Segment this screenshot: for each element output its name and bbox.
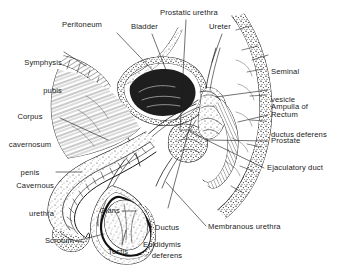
label-bladder: Bladder [131,22,158,31]
label-corpus-line1: Corpus [0,112,60,121]
label-testis: Testis [108,247,128,256]
label-membranous-urethra: Membranous urethra [208,222,281,231]
figure-canvas: Peritoneum Bladder Prostatic urethra Ure… [0,0,344,271]
label-glans: Glans [62,206,120,215]
label-rectum: Rectum [271,110,298,119]
label-peritoneum: Peritoneum [62,20,102,29]
label-prostatic-urethra: Prostatic urethra [160,8,218,17]
label-ureter: Ureter [209,22,231,31]
label-seminal-line1: Seminal [271,67,299,76]
label-cavernous-line1: Cavernous [0,181,54,190]
label-ductus-line2: deferens [144,251,190,260]
label-ejaculatory-duct: Ejaculatory duct [267,163,323,172]
label-cavernous-line2: urethra [0,209,54,218]
label-ductus-deferens: Ductus deferens [144,205,190,269]
label-corpus-line2: cavernosum [0,140,60,149]
label-symphysis-pubis-line1: Symphysis [0,58,62,67]
label-ductus-line1: Ductus [144,223,190,232]
label-scrotum: Scrotum [16,236,74,245]
label-prostate: Prostate [271,136,300,145]
label-epididymis: Epididymis [143,240,181,249]
label-cavernous-urethra: Cavernous urethra [0,163,54,227]
